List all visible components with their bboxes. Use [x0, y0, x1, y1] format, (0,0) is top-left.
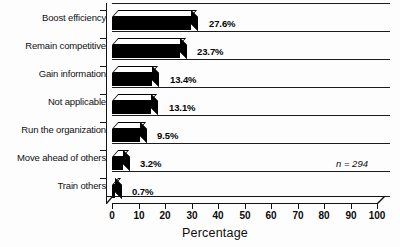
bar-side-face [152, 66, 159, 87]
y-axis-line [106, 3, 107, 203]
x-axis-tick-label: 90 [338, 210, 364, 221]
x-axis-tick [324, 203, 325, 209]
x-axis-tick [139, 203, 140, 209]
bar-value-label: 13.4% [170, 74, 196, 85]
x-axis-tick [112, 203, 113, 209]
y-axis-tick [100, 94, 107, 95]
bar-front-face [112, 157, 123, 170]
bar-chart: 27.6% 23.7% 13.4% 13.1% 9.5% [0, 0, 400, 247]
bar-front-face [112, 45, 180, 58]
category-label: Not applicable [0, 96, 106, 107]
x-axis-tick [271, 203, 272, 209]
x-axis-tick-label: 30 [179, 210, 205, 221]
bar-top-face [112, 38, 186, 45]
y-axis-tick [100, 150, 107, 151]
x-axis-tick [218, 203, 219, 209]
plot-area: 27.6% 23.7% 13.4% 13.1% 9.5% [0, 0, 400, 247]
x-axis-tick [377, 203, 378, 209]
bar-front-face [112, 73, 152, 86]
bar-side-face [191, 10, 198, 31]
axis-right-slant [377, 196, 385, 204]
x-axis-tick-label: 70 [285, 210, 311, 221]
x-axis-tick [245, 203, 246, 209]
band-separator-line [112, 87, 390, 88]
bar-value-label: 23.7% [197, 46, 223, 57]
x-axis-tick [192, 203, 193, 209]
bar-side-face [123, 150, 130, 171]
x-axis-title-wrapper: Percentage [0, 226, 400, 240]
bar-side-face [140, 122, 147, 143]
category-label: Gain information [0, 68, 106, 79]
band-separator-line [112, 59, 390, 60]
band-separator-line [112, 115, 390, 116]
x-axis-tick [165, 203, 166, 209]
category-label: Remain competitive [0, 40, 106, 51]
category-label: Run the organization [0, 124, 106, 135]
y-axis-tick [100, 178, 107, 179]
x-axis-tick-label: 10 [126, 210, 152, 221]
band-separator-line [112, 171, 390, 172]
bar-front-face [112, 101, 151, 114]
sample-size-annotation: n = 294 [336, 158, 368, 169]
x-axis-tick [351, 203, 352, 209]
bar-value-label: 27.6% [209, 18, 235, 29]
bar-value-label: 13.1% [169, 102, 195, 113]
category-label: Train others [0, 180, 106, 191]
x-axis-back-edge [106, 196, 384, 197]
x-axis-tick-label: 50 [232, 210, 258, 221]
category-label: Boost efficiency [0, 12, 106, 23]
bar-value-label: 9.5% [157, 130, 178, 141]
y-axis-tick [100, 66, 107, 67]
y-axis-tick [100, 38, 107, 39]
x-axis-tick-label: 20 [152, 210, 178, 221]
band-separator-line [112, 3, 390, 4]
category-label: Move ahead of others [0, 152, 106, 163]
y-axis-tick [100, 122, 107, 123]
x-axis-title: Percentage [182, 226, 248, 240]
x-axis-tick-label: 60 [258, 210, 284, 221]
x-axis-tick-label: 0 [99, 210, 125, 221]
x-axis-tick [298, 203, 299, 209]
y-axis-tick [100, 10, 107, 11]
bar-top-face [112, 10, 197, 17]
bar-front-face [112, 129, 140, 142]
bar-side-face [180, 38, 187, 59]
band-separator-line [112, 143, 390, 144]
x-axis-tick-label: 100 [364, 210, 390, 221]
x-axis-tick-label: 80 [311, 210, 337, 221]
bar-value-label: 3.2% [140, 158, 161, 169]
bar-side-face [151, 94, 158, 115]
bar-front-face [112, 17, 191, 30]
x-axis-tick-label: 40 [205, 210, 231, 221]
band-separator-line [112, 31, 390, 32]
